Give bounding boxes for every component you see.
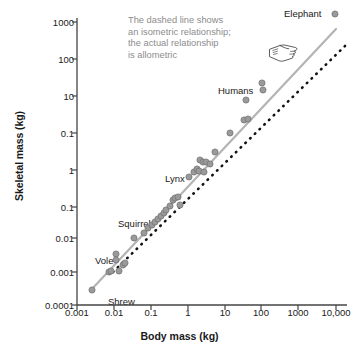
data-point: [227, 130, 233, 136]
data-point: [113, 251, 119, 257]
isometric-dashed-line: [113, 46, 345, 272]
data-point: [122, 260, 128, 266]
data-point: [201, 169, 207, 175]
data-point: [175, 194, 181, 200]
data-point: [212, 149, 218, 155]
data-point: [243, 97, 249, 103]
plot-area: [0, 0, 359, 363]
pointing-hand-icon: [270, 45, 297, 61]
data-point: [207, 161, 213, 167]
data-point: [167, 203, 173, 209]
data-point: [186, 174, 192, 180]
figure-allometry-scatter: Skeletal mass (kg) 1000 100 10 0.1 1 0.1…: [0, 0, 359, 363]
data-point: [113, 257, 119, 263]
data-point: [332, 11, 338, 17]
y-axis-ticks: [72, 22, 77, 305]
data-point: [108, 268, 114, 274]
data-point: [131, 235, 137, 241]
allometric-solid-line: [91, 29, 336, 290]
x-axis-ticks: [77, 305, 336, 310]
data-point: [177, 202, 183, 208]
data-point: [260, 87, 266, 93]
data-point: [116, 268, 122, 274]
data-point: [245, 116, 251, 122]
data-point: [89, 287, 95, 293]
data-point: [259, 80, 265, 86]
data-points: [89, 11, 338, 293]
